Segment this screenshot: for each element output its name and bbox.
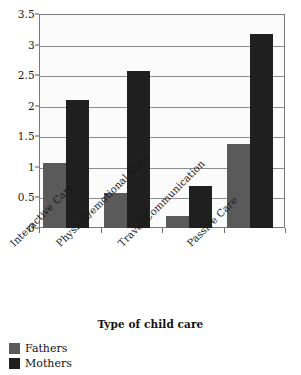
legend-swatch-mothers: [9, 358, 20, 369]
y-axis-tick-label: 3.5: [0, 8, 35, 20]
bar-group: [39, 14, 101, 228]
legend-label-mothers: Mothers: [25, 358, 72, 369]
y-axis-tick-label: 2.5: [0, 69, 35, 81]
y-axis-tick-label: 3: [0, 39, 35, 51]
bar-mothers-3: [250, 34, 273, 228]
legend-item-fathers: Fathers: [9, 341, 72, 356]
y-axis-tick-label: 1.5: [0, 130, 35, 142]
category-tick: [39, 228, 40, 233]
legend-label-fathers: Fathers: [25, 343, 67, 354]
legend-item-mothers: Mothers: [9, 356, 72, 371]
y-axis-tick-label: 1: [0, 161, 35, 173]
category-tick: [285, 228, 286, 233]
chart-legend: FathersMothers: [9, 341, 72, 371]
category-tick: [224, 228, 225, 233]
category-tick: [101, 228, 102, 233]
y-axis-tick-label: 2: [0, 100, 35, 112]
bar-chart-figure: 00.511.522.533.5 Interactive CarePhysica…: [0, 0, 301, 375]
x-axis-title: Type of child care: [0, 318, 301, 330]
category-tick: [162, 228, 163, 233]
legend-swatch-fathers: [9, 343, 20, 354]
y-axis-tick-label: 0.5: [0, 191, 35, 203]
bar-mothers-1: [127, 71, 150, 228]
bar-fathers-2: [166, 216, 189, 228]
bar-fathers-3: [227, 144, 250, 228]
